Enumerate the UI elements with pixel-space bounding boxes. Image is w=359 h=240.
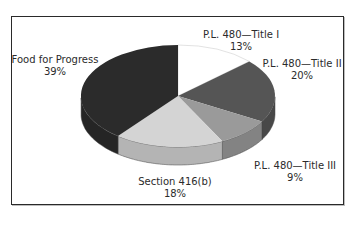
label-section-416b: Section 416(b) 18% bbox=[130, 176, 220, 200]
label-title-ii-name: P.L. 480—Title II bbox=[254, 58, 350, 70]
label-food-for-progress: Food for Progress 39% bbox=[10, 54, 100, 78]
label-title-ii-pct: 20% bbox=[254, 70, 350, 82]
label-food-for-progress-name: Food for Progress bbox=[10, 54, 100, 66]
label-title-i-pct: 13% bbox=[196, 41, 286, 53]
label-food-for-progress-pct: 39% bbox=[10, 66, 100, 78]
label-title-iii-pct: 9% bbox=[245, 172, 345, 184]
label-title-iii: P.L. 480—Title III 9% bbox=[245, 160, 345, 184]
pie-top-face bbox=[81, 45, 275, 147]
label-title-ii: P.L. 480—Title II 20% bbox=[254, 58, 350, 82]
label-title-i: P.L. 480—Title I 13% bbox=[196, 29, 286, 53]
label-title-i-name: P.L. 480—Title I bbox=[196, 29, 286, 41]
label-title-iii-name: P.L. 480—Title III bbox=[245, 160, 345, 172]
label-section-416b-pct: 18% bbox=[130, 188, 220, 200]
label-section-416b-name: Section 416(b) bbox=[130, 176, 220, 188]
